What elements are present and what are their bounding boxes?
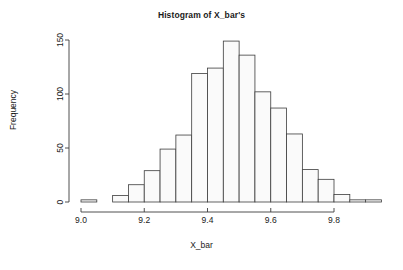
histogram-bar bbox=[144, 171, 160, 202]
histogram-bar bbox=[334, 194, 350, 202]
histogram-bar bbox=[366, 200, 382, 202]
histogram-bar bbox=[239, 55, 255, 202]
y-axis-tick-label: 0 bbox=[55, 199, 65, 204]
histogram-bar bbox=[287, 134, 303, 202]
y-axis-tick-label: 100 bbox=[55, 87, 65, 101]
histogram-bar bbox=[255, 92, 271, 202]
histogram-bar bbox=[128, 185, 144, 202]
histogram-bar bbox=[113, 196, 129, 202]
x-axis-tick-label: 9.2 bbox=[138, 215, 150, 225]
y-axis-tick-label: 150 bbox=[55, 33, 65, 47]
histogram-bar bbox=[223, 41, 239, 202]
histogram-bar bbox=[176, 135, 192, 202]
x-axis-tick-label: 9.4 bbox=[202, 215, 214, 225]
y-axis-tick-label: 50 bbox=[55, 143, 65, 153]
histogram-bar bbox=[160, 149, 176, 202]
histogram-bar bbox=[192, 73, 208, 202]
histogram-bar bbox=[302, 170, 318, 202]
plot-area: 050100150 9.09.29.49.69.8 bbox=[0, 0, 403, 270]
histogram-bar bbox=[208, 68, 224, 202]
x-axis-tick-label: 9.6 bbox=[265, 215, 277, 225]
histogram-bar bbox=[81, 200, 97, 202]
x-axis-tick-label: 9.0 bbox=[75, 215, 87, 225]
x-axis-tick-label: 9.8 bbox=[328, 215, 340, 225]
histogram-bars bbox=[81, 41, 381, 202]
histogram-chart: Histogram of X_bar's Frequency X_bar 050… bbox=[0, 0, 403, 270]
y-axis: 050100150 bbox=[55, 33, 69, 205]
histogram-bar bbox=[350, 200, 366, 202]
histogram-bar bbox=[271, 108, 287, 202]
histogram-bar bbox=[318, 179, 334, 202]
x-axis: 9.09.29.49.69.8 bbox=[75, 208, 340, 225]
